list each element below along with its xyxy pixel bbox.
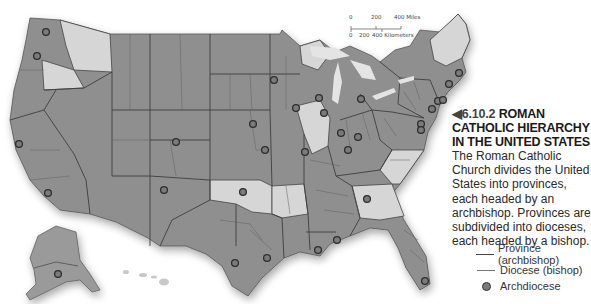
caption-body: The Roman Catholic Church divides the Un…: [452, 149, 591, 248]
scale-mi-0: 0: [349, 14, 353, 20]
archdiocese-dot: [440, 97, 447, 104]
archdiocese-dot: [161, 187, 168, 194]
alaska: [26, 226, 100, 300]
archdiocese-dot: [293, 105, 300, 112]
archdiocese-dot: [232, 260, 239, 267]
map-legend: Province (archbishop) Diocese (bishop) A…: [476, 246, 591, 294]
scale-km-0: 0: [349, 32, 353, 38]
archdiocese-dot: [355, 134, 362, 141]
archdiocese-dot: [264, 255, 271, 262]
archdiocese-dot: [429, 106, 436, 113]
archdiocese-dot: [16, 141, 23, 148]
archdiocese-dot: [43, 29, 50, 36]
archdiocese-dot: [45, 190, 52, 197]
legend-label: Archdiocese: [500, 280, 561, 292]
archdiocese-dot: [271, 77, 278, 84]
archdiocese-dot: [315, 247, 322, 254]
archdiocese-dot: [55, 271, 62, 278]
figure-caption: ◀6.10.2 ROMAN CATHOLIC HIERARCHY IN THE …: [452, 107, 591, 248]
diocese-line-icon: [477, 270, 495, 271]
archdiocese-dot: [422, 278, 429, 285]
archdiocese-dot: [338, 130, 345, 137]
legend-item-diocese: Diocese (bishop): [476, 262, 591, 278]
caption-title-block: ◀6.10.2 ROMAN CATHOLIC HIERARCHY IN THE …: [452, 107, 591, 149]
archdiocese-dot: [302, 149, 309, 156]
archdiocese-dot-icon: [482, 282, 491, 291]
archdiocese-dot: [240, 189, 247, 196]
scale-bar: 0 200 400 Miles 0 200 400 Kilometers: [318, 14, 428, 38]
archdiocese-dot: [446, 81, 453, 88]
archdiocese-dot: [456, 70, 463, 77]
archdiocese-dot: [173, 139, 180, 146]
archdiocese-dot: [358, 96, 365, 103]
province-line-icon: [476, 254, 494, 255]
archdiocese-dot: [334, 237, 341, 244]
caption-marker-icon: ◀: [452, 107, 462, 121]
province-atlanta: [352, 184, 404, 220]
hawaii: [123, 270, 169, 286]
archdiocese-dot: [345, 147, 352, 154]
figure-number: 6.10.2: [462, 107, 496, 121]
archdiocese-dot: [321, 110, 328, 117]
legend-item-province: Province (archbishop): [476, 246, 591, 262]
archdiocese-dot: [316, 95, 323, 102]
archdiocese-dot: [364, 196, 371, 203]
scale-km-200: 200: [359, 32, 370, 38]
archdiocese-dot: [262, 147, 269, 154]
legend-label: Province (archbishop): [498, 242, 591, 266]
archdiocese-dot: [250, 121, 257, 128]
scale-mi-200: 200: [371, 14, 382, 20]
scale-km-400: 400 Kilometers: [372, 32, 414, 38]
scale-mi-400: 400 Miles: [394, 14, 420, 20]
archdiocese-dot: [418, 127, 425, 134]
legend-label: Diocese (bishop): [500, 264, 583, 276]
legend-item-archdiocese: Archdiocese: [476, 278, 591, 294]
province-new-england: [430, 14, 470, 66]
archdiocese-dot: [34, 53, 41, 60]
